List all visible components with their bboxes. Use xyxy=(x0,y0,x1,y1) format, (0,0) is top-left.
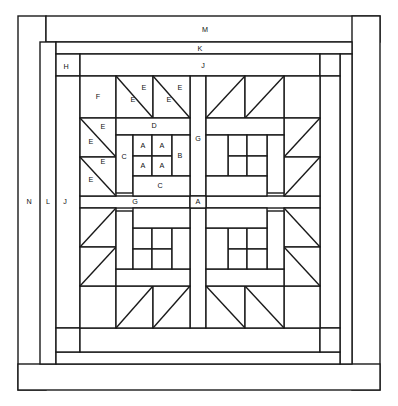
label-a-4: A xyxy=(160,161,165,170)
rectangle-d-bl xyxy=(116,269,190,286)
label-c-left: C xyxy=(121,152,126,161)
quilt-diagram-canvas: M K J H N L J F E E E E E E E E D C C B … xyxy=(0,0,398,406)
rectangle-d-br xyxy=(206,269,284,286)
square-a-bl-2 xyxy=(152,228,172,249)
square-a-tr-2 xyxy=(247,135,267,156)
border-piece-k-top xyxy=(56,42,352,54)
corner-square-h-bl xyxy=(56,328,80,352)
rectangle-c-bl-left xyxy=(116,211,133,269)
rectangle-c-br-right xyxy=(267,211,284,269)
rectangle-c-bl-top xyxy=(133,208,190,228)
plain-square-f-br xyxy=(284,286,320,328)
label-e-5: E xyxy=(101,122,106,131)
border-piece-k-right xyxy=(340,54,352,364)
label-a-3: A xyxy=(141,161,146,170)
label-a-center: A xyxy=(196,197,201,206)
square-a-br-4 xyxy=(247,249,267,269)
label-a-1: A xyxy=(141,141,146,150)
sashing-j-top xyxy=(80,54,320,76)
border-piece-k-bottom xyxy=(56,352,340,364)
square-a-tr-3 xyxy=(228,156,247,176)
label-a-2: A xyxy=(160,141,165,150)
rectangle-b-tr xyxy=(206,135,228,176)
square-a-bl-3 xyxy=(133,249,152,269)
square-a-tr-4 xyxy=(247,156,267,176)
label-n: N xyxy=(26,197,31,206)
rectangle-b-br xyxy=(206,228,228,269)
label-e-7: E xyxy=(101,157,106,166)
rectangle-c-tr-right xyxy=(267,135,284,193)
square-a-tr-1 xyxy=(228,135,247,156)
quadrant-bottom-left xyxy=(80,208,190,328)
rectangle-b-bl xyxy=(172,228,190,269)
border-piece-m-bottom xyxy=(18,364,380,390)
sashing-g-horizontal-right xyxy=(206,196,320,208)
border-piece-m-top xyxy=(46,16,380,42)
label-m: M xyxy=(202,25,208,34)
rectangle-c-tr-bottom xyxy=(206,176,267,196)
label-b: B xyxy=(178,151,183,160)
label-d: D xyxy=(151,121,156,130)
square-a-br-2 xyxy=(247,228,267,249)
square-a-bl-1 xyxy=(133,228,152,249)
label-g-horz: G xyxy=(132,197,138,206)
square-a-br-1 xyxy=(228,228,247,249)
square-a-bl-4 xyxy=(152,249,172,269)
square-a-br-3 xyxy=(228,249,247,269)
corner-square-h-br xyxy=(320,328,340,352)
label-c-bot: C xyxy=(157,181,162,190)
label-l: L xyxy=(46,197,50,206)
label-e-4: E xyxy=(178,83,183,92)
label-e-6: E xyxy=(89,137,94,146)
sashing-j-right xyxy=(320,76,340,328)
label-k: K xyxy=(198,44,203,53)
label-h: H xyxy=(63,62,68,71)
label-j-left: J xyxy=(63,197,67,206)
plain-square-f-tr xyxy=(284,76,320,118)
label-e-2: E xyxy=(142,83,147,92)
label-f: F xyxy=(96,92,101,101)
rectangle-c-br-top xyxy=(206,208,267,228)
corner-square-h-tr xyxy=(320,54,340,76)
plain-square-f-bl xyxy=(80,286,116,328)
quilt-block-diagram: M K J H N L J F E E E E E E E E D C C B … xyxy=(0,0,398,406)
rectangle-c-left xyxy=(116,135,133,193)
sashing-j-left xyxy=(56,76,80,328)
rectangle-d-tr xyxy=(206,118,284,135)
sashing-g-vertical-bottom xyxy=(190,208,206,328)
quadrant-top-right xyxy=(206,76,320,196)
label-g-vert: G xyxy=(195,134,201,143)
quadrant-bottom-right xyxy=(206,208,320,328)
border-piece-m-right xyxy=(352,16,380,390)
label-e-3: E xyxy=(167,95,172,104)
sashing-j-bottom xyxy=(80,328,320,352)
label-j-top: J xyxy=(201,61,205,70)
label-e-8: E xyxy=(89,175,94,184)
label-e-1: E xyxy=(131,95,136,104)
